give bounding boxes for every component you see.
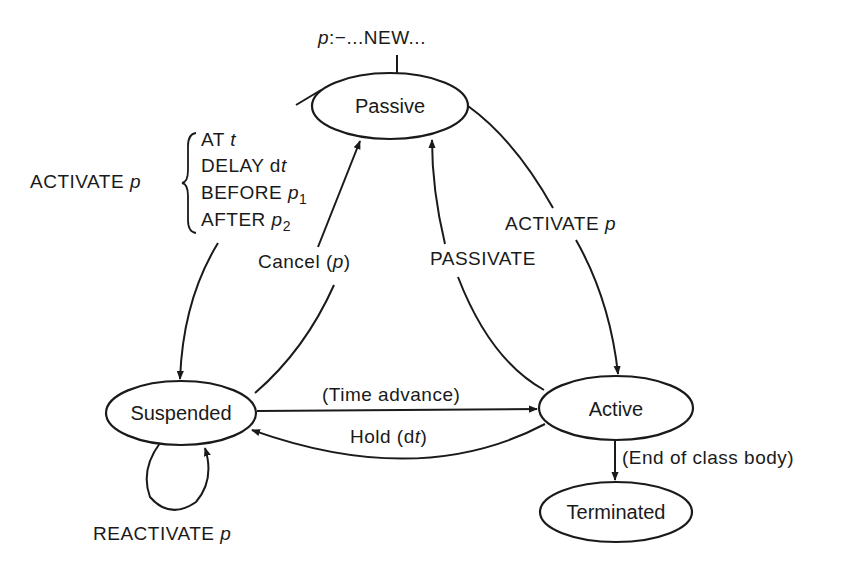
- edge-passive-to-suspended: [180, 243, 218, 379]
- option-at: AT t: [201, 129, 236, 150]
- node-passive: Passive: [312, 73, 468, 139]
- hold-label: Hold (dt): [350, 426, 427, 447]
- node-suspended-label: Suspended: [130, 402, 231, 424]
- node-terminated: Terminated: [540, 482, 692, 542]
- edge-passivate-lower: [458, 277, 544, 390]
- edge-cancel-lower: [255, 285, 334, 393]
- entry-label: p:−...NEW...: [317, 27, 426, 48]
- edge-passivate-upper: [432, 140, 445, 244]
- edge-reactivate-loop: [147, 443, 209, 510]
- reactivate-label: REACTIVATE p: [93, 523, 231, 544]
- activate-right-label: ACTIVATE p: [505, 213, 616, 234]
- node-terminated-label: Terminated: [567, 501, 666, 523]
- state-diagram: p:−...NEW... Passive Suspended Active Te…: [0, 0, 847, 570]
- edge-time-advance: [257, 409, 537, 411]
- edge-activate-right-upper: [468, 106, 553, 208]
- node-suspended: Suspended: [106, 381, 256, 445]
- activate-left-label: ACTIVATE p: [30, 171, 141, 192]
- options-brace: [182, 133, 196, 233]
- edge-activate-right-lower: [576, 240, 618, 374]
- option-before: BEFORE p1: [201, 182, 307, 207]
- end-of-class-label: (End of class body): [622, 447, 794, 468]
- option-after: AFTER p2: [201, 209, 291, 234]
- node-active-label: Active: [589, 398, 643, 420]
- cancel-label: Cancel (p): [258, 251, 351, 272]
- option-delay: DELAY dt: [201, 155, 287, 176]
- edge-cancel-upper: [318, 141, 360, 247]
- node-active: Active: [539, 376, 693, 440]
- passivate-label: PASSIVATE: [430, 248, 536, 269]
- time-advance-label: (Time advance): [322, 384, 460, 405]
- node-passive-label: Passive: [355, 95, 425, 117]
